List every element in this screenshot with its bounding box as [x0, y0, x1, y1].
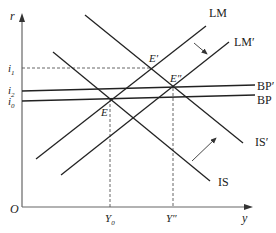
label-bp: BP	[257, 93, 272, 107]
lm-shift-arrow-icon	[194, 43, 207, 54]
label-bp-prime: BP′	[257, 79, 275, 93]
x-axis-label: y	[241, 211, 248, 225]
bp-prime-curve	[22, 85, 255, 91]
label-is-prime: IS′	[255, 135, 269, 149]
point-e-dprime: E″	[169, 72, 182, 84]
label-is: IS	[218, 175, 229, 189]
tick-i1: i1	[8, 62, 15, 77]
point-e-prime: E′	[148, 52, 159, 64]
bp-curve	[22, 95, 255, 101]
y-axis-arrow-icon	[19, 13, 25, 22]
tick-ydd: Y″	[166, 212, 177, 224]
is-shift-arrow-icon	[192, 138, 216, 161]
point-e: E	[100, 106, 108, 118]
label-lm: LM	[209, 6, 227, 20]
tick-y0: Y0	[105, 212, 115, 227]
islm-bp-diagram: r y O i1 i2 i0 Y0 Y″ LM LM′ BP′ BP IS′ I…	[0, 0, 276, 233]
is-curve	[53, 52, 210, 181]
origin-label: O	[10, 202, 19, 216]
lm-prime-curve	[61, 42, 229, 175]
x-axis-arrow-icon	[244, 204, 253, 210]
y-axis-label: r	[10, 9, 15, 23]
is-prime-curve	[85, 15, 243, 143]
label-lm-prime: LM′	[234, 35, 255, 49]
